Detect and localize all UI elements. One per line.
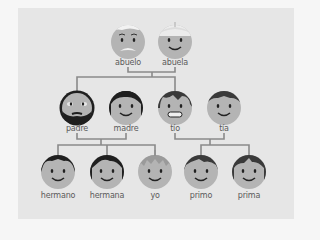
face-abuelo: [108, 24, 148, 59]
label-primo: primo: [176, 191, 226, 200]
face-madre: [108, 88, 144, 125]
connector-tios-children: [201, 139, 249, 156]
label-yo: yo: [130, 191, 180, 200]
connector-padres-couple: [77, 133, 126, 139]
label-abuela: abuela: [150, 58, 200, 67]
face-primo: [183, 153, 219, 189]
connector-abuelos-couple: [128, 67, 175, 72]
connector-padres-children: [58, 139, 155, 156]
label-prima: prima: [224, 191, 274, 200]
label-tia: tía: [199, 124, 249, 133]
face-hermana: [89, 153, 125, 190]
face-yo: [137, 150, 173, 189]
label-madre: madre: [101, 124, 151, 133]
label-abuelo: abuelo: [103, 58, 153, 67]
label-hermano: hermano: [33, 191, 83, 200]
connector-abuelos-children: [77, 72, 175, 91]
face-prima: [231, 153, 267, 189]
label-padre: padre: [52, 124, 102, 133]
face-abuela: [155, 22, 195, 59]
face-tia: [206, 88, 242, 125]
connector-tios-couple: [175, 133, 224, 139]
label-hermana: hermana: [82, 191, 132, 200]
face-hermano: [40, 153, 76, 189]
face-tio: [157, 88, 193, 125]
label-tio: tío: [150, 124, 200, 133]
